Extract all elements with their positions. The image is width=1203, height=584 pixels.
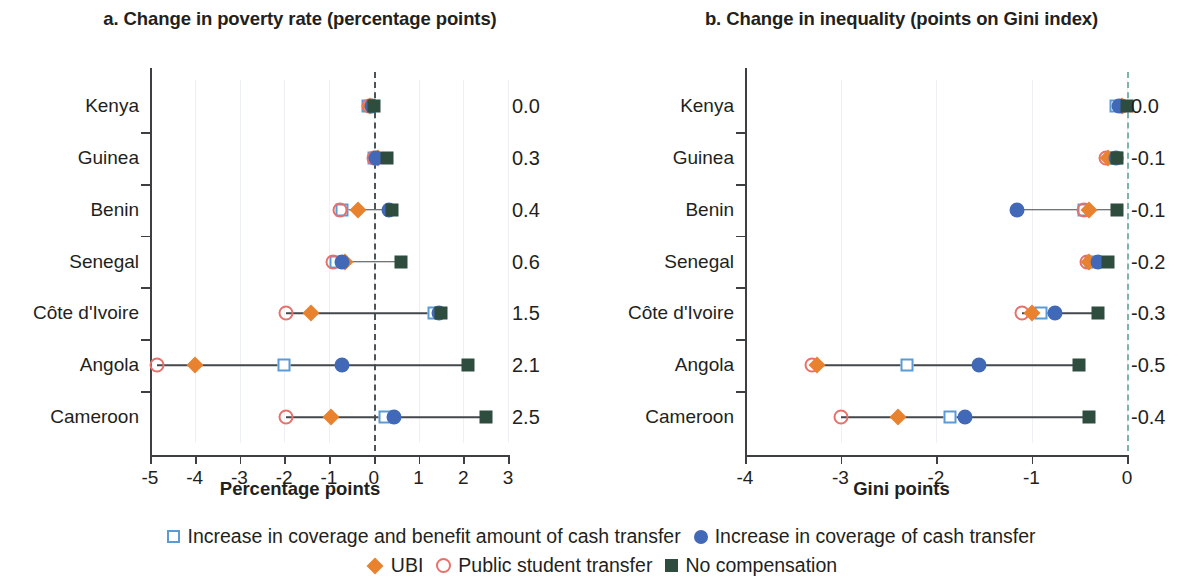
data-marker-diamond (889, 409, 906, 426)
y-tick (736, 339, 745, 341)
y-axis-category-label: Senegal (600, 251, 734, 273)
legend: Increase in coverage and benefit amount … (0, 522, 1203, 580)
y-axis-category-label: Guinea (600, 147, 734, 169)
data-value-label: -0.4 (1131, 406, 1165, 429)
legend-label: UBI (391, 554, 424, 577)
legend-swatch-diamond-icon (366, 557, 383, 574)
x-tick (841, 455, 843, 464)
data-value-label: 0.6 (512, 250, 540, 273)
data-marker-square-filled (1101, 255, 1114, 268)
x-axis-title-a: Percentage points (0, 478, 600, 500)
data-marker-square-filled (461, 359, 474, 372)
y-axis-category-label: Cameroon (0, 406, 139, 428)
data-marker-square-filled (1082, 411, 1095, 424)
data-marker-circle-open (279, 410, 294, 425)
legend-item[interactable]: UBI (366, 554, 424, 577)
data-marker-diamond (186, 357, 203, 374)
data-marker-square-filled (479, 411, 492, 424)
data-marker-diamond (350, 201, 367, 218)
x-tick (1032, 455, 1034, 464)
data-marker-circle-filled (971, 358, 986, 373)
data-marker-square-filled (1111, 203, 1124, 216)
y-axis-category-label: Côte d'Ivoire (0, 302, 139, 324)
data-marker-square-filled (381, 151, 394, 164)
y-axis-category-label: Benin (600, 199, 734, 221)
legend-item[interactable]: Increase in coverage of cash transfer (694, 525, 1036, 548)
data-value-label: -0.2 (1131, 250, 1165, 273)
gridline (936, 80, 937, 443)
gridline (240, 80, 241, 443)
legend-item[interactable]: Public student transfer (436, 554, 652, 577)
zero-reference-line (1127, 72, 1129, 451)
y-tick (736, 391, 745, 393)
data-value-label: 0.0 (512, 94, 540, 117)
y-tick (141, 391, 150, 393)
data-value-label: -0.1 (1131, 146, 1165, 169)
data-marker-square-open (278, 359, 291, 372)
connector-line (812, 364, 1079, 366)
data-value-label: -0.3 (1131, 302, 1165, 325)
x-axis-title-b: Gini points (600, 478, 1203, 500)
data-marker-circle-filled (957, 410, 972, 425)
x-tick (936, 455, 938, 464)
y-axis-category-label: Angola (600, 354, 734, 376)
x-tick (1127, 455, 1129, 464)
data-marker-circle-open (333, 202, 348, 217)
data-value-label: 2.5 (512, 406, 540, 429)
legend-label: Increase in coverage of cash transfer (715, 525, 1036, 548)
y-tick (141, 184, 150, 186)
data-value-label: -0.1 (1131, 198, 1165, 221)
x-tick (508, 455, 510, 464)
data-marker-square-filled (394, 255, 407, 268)
legend-label: Public student transfer (458, 554, 652, 577)
gridline (195, 80, 196, 443)
legend-item[interactable]: Increase in coverage and benefit amount … (167, 525, 680, 548)
x-tick (195, 455, 197, 464)
data-marker-circle-filled (335, 254, 350, 269)
data-marker-circle-open (149, 358, 164, 373)
data-marker-diamond (303, 305, 320, 322)
data-marker-square-open (901, 359, 914, 372)
data-value-label: 0.0 (1131, 94, 1159, 117)
y-tick (141, 236, 150, 238)
y-axis-line (150, 68, 152, 455)
panel-inequality: b. Change in inequality (points on Gini … (600, 0, 1203, 520)
y-tick (736, 287, 745, 289)
x-tick (240, 455, 242, 464)
data-marker-square-filled (1073, 359, 1086, 372)
x-tick (284, 455, 286, 464)
data-marker-square-filled (1092, 307, 1105, 320)
data-value-label: -0.5 (1131, 354, 1165, 377)
legend-item[interactable]: No compensation (665, 554, 837, 577)
connector-line (1017, 209, 1117, 211)
y-axis-category-label: Côte d'Ivoire (600, 302, 734, 324)
y-axis-category-label: Senegal (0, 251, 139, 273)
y-axis-line (745, 68, 747, 455)
figure-root: a. Change in poverty rate (percentage po… (0, 0, 1203, 584)
legend-swatch-square-filled-icon (665, 559, 678, 572)
data-value-label: 1.5 (512, 302, 540, 325)
y-axis-category-label: Guinea (0, 147, 139, 169)
x-tick (745, 455, 747, 464)
x-tick (329, 455, 331, 464)
data-marker-circle-filled (386, 410, 401, 425)
legend-swatch-circle-filled-icon (694, 530, 708, 544)
x-tick (374, 455, 376, 464)
y-tick (141, 339, 150, 341)
legend-label: No compensation (685, 554, 837, 577)
gridline (463, 80, 464, 443)
data-marker-square-filled (367, 99, 380, 112)
y-axis-category-label: Angola (0, 354, 139, 376)
y-axis-category-label: Benin (0, 199, 139, 221)
x-tick (150, 455, 152, 464)
data-value-label: 2.1 (512, 354, 540, 377)
x-tick (419, 455, 421, 464)
y-tick (736, 132, 745, 134)
data-marker-square-filled (434, 307, 447, 320)
data-marker-circle-filled (335, 358, 350, 373)
legend-label: Increase in coverage and benefit amount … (187, 525, 680, 548)
y-axis-category-label: Cameroon (600, 406, 734, 428)
y-tick (736, 184, 745, 186)
gridline (508, 80, 509, 443)
y-tick (736, 236, 745, 238)
